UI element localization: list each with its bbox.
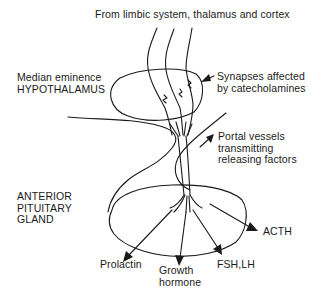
portal-text-line3: releasing factors	[218, 154, 297, 166]
synapses-text-line2: by catecholamines	[217, 83, 306, 95]
source-regions-text: From limbic system, thalamus and cortex	[95, 9, 290, 21]
growth-hormone-text-line1: Growth	[159, 265, 201, 277]
terminal-fiber-5	[190, 195, 202, 208]
synapses-text-line1: Synapses affected	[217, 71, 306, 83]
stalk-branch-4	[187, 124, 192, 136]
arrow-fsh-lh-line	[193, 210, 218, 248]
label-anterior-pituitary: ANTERIOR PITUITARY GLAND	[17, 191, 72, 226]
stalk-outline-left	[68, 117, 176, 212]
label-acth: ACTH	[263, 226, 292, 238]
label-growth-hormone: Growth hormone	[159, 265, 201, 288]
synapse-squiggle-1	[163, 95, 167, 103]
axon-bundle-left	[178, 136, 184, 195]
acth-text: ACTH	[263, 226, 292, 238]
arrow-growth-hormone-line	[180, 212, 186, 258]
arrow-fsh-lh-head	[213, 244, 222, 255]
pituitary-text-line1: ANTERIOR	[17, 191, 72, 203]
label-synapses: Synapses affected by catecholamines	[217, 71, 306, 94]
label-portal-vessels: Portal vessels transmitting releasing fa…	[218, 131, 297, 166]
pointer-portal-head	[206, 134, 214, 143]
label-prolactin: Prolactin	[100, 259, 142, 271]
hypothalamus-text: HYPOTHALAMUS	[17, 84, 105, 96]
label-source-regions: From limbic system, thalamus and cortex	[95, 9, 290, 21]
terminal-fiber-3	[186, 196, 187, 212]
pituitary-text-line3: GLAND	[17, 214, 72, 226]
portal-text-line1: Portal vessels	[218, 131, 297, 143]
synapse-squiggle-2	[179, 89, 182, 97]
stalk-branch-3	[184, 122, 186, 136]
arrow-acth-line	[210, 204, 248, 226]
growth-hormone-text-line2: hormone	[159, 277, 201, 289]
median-eminence-text: Median eminence	[17, 72, 105, 84]
label-fsh-lh: FSH,LH	[217, 259, 255, 271]
terminal-fiber-4	[189, 196, 190, 212]
arrow-prolactin-line	[128, 210, 172, 256]
prolactin-text: Prolactin	[100, 259, 142, 271]
hypothalamus-pituitary-diagram: From limbic system, thalamus and cortex …	[0, 0, 323, 295]
pointer-synapses-head	[201, 74, 211, 82]
median-eminence-outline	[111, 69, 203, 120]
terminal-fiber-2	[174, 195, 185, 212]
fsh-lh-text: FSH,LH	[217, 259, 255, 271]
label-median-eminence: Median eminence HYPOTHALAMUS	[17, 72, 105, 95]
pituitary-gland-outline	[109, 185, 246, 257]
